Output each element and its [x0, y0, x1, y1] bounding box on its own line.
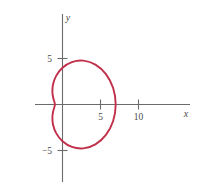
- x-tick-label-10: 10: [134, 112, 144, 122]
- x-tick-label-5: 5: [98, 112, 103, 122]
- x-axis-label: x: [183, 108, 189, 119]
- y-axis-label: y: [65, 12, 71, 23]
- y-tick-label-5: 5: [47, 54, 52, 64]
- plot-canvas: 5 10 5 −5 x y: [0, 0, 202, 194]
- polar-curve-figure: 5 10 5 −5 x y: [0, 0, 202, 194]
- y-tick-label-minus-5: −5: [42, 146, 52, 156]
